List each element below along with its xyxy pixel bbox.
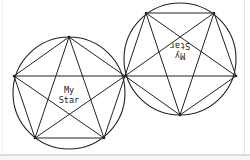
right-star-label-group: My Star xyxy=(170,41,190,61)
vertex-dot xyxy=(13,75,16,78)
pentagram-edge xyxy=(125,13,214,76)
pentagram-edge xyxy=(180,13,214,115)
vertex-dot xyxy=(103,137,106,140)
vertex-dot xyxy=(68,36,71,39)
star-diagram: My Star My Star xyxy=(0,0,250,160)
pentagon-edge xyxy=(180,76,236,115)
pentagram-edge xyxy=(14,76,104,138)
pentagon-edge xyxy=(125,76,180,115)
right-star-label-line1: My xyxy=(175,51,185,61)
pentagon-edge xyxy=(125,13,146,76)
vertex-dot xyxy=(124,75,127,78)
left-star-label-line2: Star xyxy=(59,95,79,105)
vertex-dot xyxy=(145,12,148,15)
vertex-dot xyxy=(179,114,182,117)
pentagon-edge xyxy=(14,76,35,138)
pentagon-edge xyxy=(69,37,125,76)
pentagram-edge xyxy=(69,37,104,138)
pentagon-edge xyxy=(14,37,69,76)
left-star-label-line1: My xyxy=(64,85,74,95)
pentagram-edge xyxy=(146,13,180,115)
vertex-dot xyxy=(213,12,216,15)
vertex-dot xyxy=(34,137,37,140)
pentagon-edge xyxy=(104,76,125,138)
vertex-dot xyxy=(235,75,238,78)
pentagon-edge xyxy=(214,13,236,76)
right-star-label-line2: Star xyxy=(170,41,190,51)
